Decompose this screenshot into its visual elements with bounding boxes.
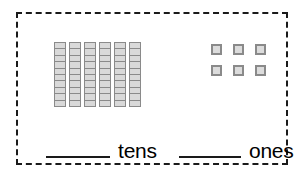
ones-unit-cube[interactable]	[211, 44, 222, 55]
ten-rod-unit-cell	[129, 100, 141, 107]
ten-rod[interactable]	[84, 42, 96, 107]
ones-unit-cube[interactable]	[211, 65, 222, 76]
ones-unit-cube[interactable]	[233, 44, 244, 55]
answer-row: tens ones	[34, 140, 306, 170]
ones-unit-cube[interactable]	[255, 65, 266, 76]
worksheet-page: tens ones	[0, 0, 306, 178]
ten-rod-unit-cell	[69, 100, 81, 107]
ones-blocks-group	[211, 44, 266, 76]
ten-rod-unit-cell	[99, 100, 111, 107]
ten-rod-unit-cell	[54, 100, 66, 107]
ten-rod[interactable]	[114, 42, 126, 107]
ten-rod-unit-cell	[114, 100, 126, 107]
tens-label: tens	[118, 140, 157, 161]
ten-rod[interactable]	[54, 42, 66, 107]
ten-rod[interactable]	[99, 42, 111, 107]
answer-slot-ones: ones	[179, 140, 294, 161]
ten-rod[interactable]	[69, 42, 81, 107]
tens-answer-blank[interactable]	[46, 156, 110, 158]
ones-answer-blank[interactable]	[179, 156, 241, 158]
ones-label: ones	[249, 140, 294, 161]
ones-unit-cube[interactable]	[233, 65, 244, 76]
tens-blocks-group	[54, 42, 141, 107]
ten-rod-unit-cell	[84, 100, 96, 107]
ten-rod[interactable]	[129, 42, 141, 107]
answer-slot-tens: tens	[46, 140, 157, 161]
worksheet-dashed-frame: tens ones	[16, 12, 288, 165]
ones-unit-cube[interactable]	[255, 44, 266, 55]
